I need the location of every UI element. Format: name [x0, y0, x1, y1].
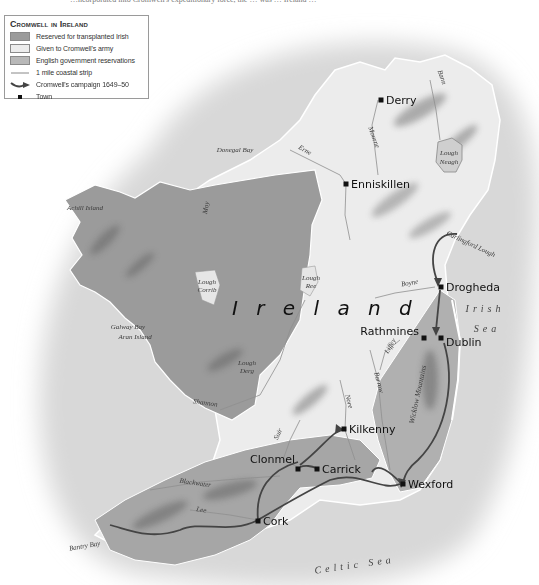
legend-label: Cromwell's campaign 1649–50 — [36, 81, 129, 88]
campaign-arrow-icon — [10, 81, 30, 89]
legend-item-army: Given to Cromwell's army — [10, 43, 143, 54]
town-marker-icon — [256, 519, 261, 524]
water-label: Lough — [301, 274, 320, 282]
water-label: Galway Bay — [111, 323, 146, 331]
town-label: Cork — [263, 515, 289, 528]
water-label: Derg — [239, 367, 255, 375]
water-label: Corrib — [197, 286, 217, 294]
town-marker-icon — [344, 182, 349, 187]
town-marker-icon — [422, 336, 427, 341]
legend-item-irish-reserved: Reserved for transplanted Irish — [10, 31, 143, 42]
town-marker-icon — [296, 467, 301, 472]
town-marker-icon — [439, 285, 444, 290]
water-label: Lough — [197, 278, 216, 286]
legend-label: Reserved for transplanted Irish — [36, 33, 129, 40]
sea-label: Irish — [465, 303, 505, 314]
town-marker-icon — [379, 98, 384, 103]
town-marker-icon — [315, 467, 320, 472]
water-label: Lough — [237, 359, 256, 367]
town-label: Rathmines — [360, 325, 419, 338]
swatch-english-reserved — [10, 56, 30, 65]
island-label: Achill Island — [66, 204, 103, 212]
town-label: Drogheda — [446, 281, 500, 294]
island-label: Aran Island — [117, 333, 152, 341]
water-label: Ree — [305, 282, 317, 290]
town-label: Wexford — [408, 478, 453, 491]
legend-label: 1 mile coastal strip — [36, 69, 92, 76]
town-label: Clonmel — [250, 453, 295, 466]
legend-label: Town — [36, 93, 52, 100]
town-label: Derry — [386, 94, 417, 107]
swatch-army — [10, 44, 30, 53]
water-label: Neagh — [439, 158, 459, 166]
legend-item-coastal-strip: 1 mile coastal strip — [10, 67, 143, 78]
coastal-line-icon — [10, 71, 30, 75]
town-square-icon — [10, 94, 30, 100]
town-label: Dublin — [446, 336, 482, 349]
swatch-irish-reserved — [10, 32, 30, 41]
sea-label: Sea — [474, 323, 500, 334]
legend-label: English government reservations — [36, 57, 135, 64]
country-label: I r e l a n d — [232, 296, 418, 320]
legend-item-town: Town — [10, 91, 143, 102]
legend-item-campaign: Cromwell's campaign 1649–50 — [10, 79, 143, 90]
town-label: Carrick — [322, 463, 361, 476]
water-label: Donegal Bay — [216, 146, 255, 154]
town-label: Kilkenny — [349, 423, 396, 436]
town-marker-icon — [342, 427, 347, 432]
legend-title: Cromwell in Ireland — [10, 19, 143, 29]
town-label: Enniskillen — [351, 178, 410, 191]
legend: Cromwell in Ireland Reserved for transpl… — [4, 15, 149, 99]
town-marker-icon — [401, 482, 406, 487]
legend-item-english-reserved: English government reservations — [10, 55, 143, 66]
water-label: Lough — [439, 149, 458, 157]
town-marker-icon — [439, 336, 444, 341]
legend-label: Given to Cromwell's army — [36, 45, 113, 52]
